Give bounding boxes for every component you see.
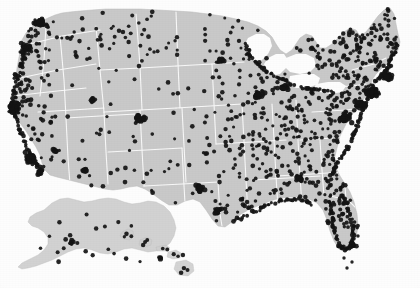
- map-data-point: [334, 237, 338, 241]
- map-data-point: [129, 234, 133, 238]
- map-data-point: [34, 33, 38, 37]
- map-data-point: [379, 60, 383, 64]
- map-data-point: [292, 83, 296, 87]
- map-data-point: [55, 35, 59, 39]
- map-data-point: [227, 148, 232, 153]
- map-data-point: [12, 105, 15, 108]
- map-data-point: [203, 39, 207, 43]
- map-data-point: [359, 67, 363, 71]
- map-data-point: [323, 158, 326, 161]
- map-data-point: [232, 62, 236, 66]
- map-data-point: [51, 155, 54, 158]
- map-data-point: [109, 171, 114, 176]
- map-data-point: [288, 141, 292, 145]
- map-data-point: [330, 62, 335, 67]
- map-data-point: [277, 156, 281, 160]
- map-data-point: [182, 266, 186, 270]
- map-data-point: [332, 40, 337, 45]
- map-data-point: [265, 148, 269, 152]
- map-data-point: [172, 252, 176, 256]
- map-data-point: [355, 106, 358, 109]
- map-data-point: [187, 163, 191, 167]
- map-data-point: [275, 113, 278, 116]
- map-data-point: [329, 94, 332, 97]
- map-data-point: [316, 44, 319, 47]
- map-data-point: [175, 53, 179, 57]
- map-data-point: [267, 203, 270, 206]
- map-data-point: [40, 132, 44, 136]
- map-data-point: [392, 37, 396, 41]
- map-data-point: [349, 120, 354, 125]
- map-data-point: [317, 52, 321, 56]
- map-data-point: [255, 210, 259, 214]
- map-data-point: [28, 151, 31, 154]
- map-data-point: [250, 143, 254, 147]
- map-data-point: [218, 60, 222, 64]
- map-data-point: [343, 183, 347, 187]
- map-data-point: [294, 106, 298, 110]
- map-data-point: [316, 180, 320, 184]
- map-data-point: [150, 132, 154, 136]
- map-data-point: [233, 157, 237, 161]
- map-data-point: [16, 120, 20, 124]
- map-data-point: [309, 143, 312, 146]
- map-data-point: [27, 159, 31, 163]
- map-data-point: [251, 102, 254, 105]
- map-data-point: [295, 151, 299, 155]
- map-data-point: [27, 40, 31, 44]
- map-data-point: [319, 121, 323, 125]
- map-data-point: [138, 260, 141, 263]
- map-data-point: [88, 174, 91, 177]
- map-data-point: [96, 38, 100, 42]
- map-data-point: [308, 72, 311, 75]
- map-data-point: [285, 133, 289, 137]
- map-data-point: [128, 149, 131, 152]
- map-data-point: [260, 79, 265, 84]
- map-data-point: [355, 44, 359, 48]
- map-data-point: [179, 270, 184, 275]
- map-data-point: [264, 127, 267, 130]
- map-data-point: [339, 217, 344, 222]
- map-data-point: [276, 174, 280, 178]
- map-data-point: [251, 147, 254, 150]
- map-data-point: [337, 241, 341, 245]
- map-data-point: [338, 208, 342, 212]
- map-data-point: [344, 57, 349, 62]
- map-data-point: [339, 66, 343, 70]
- map-data-point: [171, 92, 175, 96]
- map-data-point: [213, 199, 217, 203]
- map-data-point: [285, 87, 290, 92]
- map-data-point: [353, 220, 357, 224]
- map-data-point: [260, 89, 264, 93]
- map-data-point: [215, 49, 218, 52]
- map-data-point: [301, 110, 304, 113]
- map-data-point: [36, 54, 40, 58]
- map-data-point: [14, 80, 18, 84]
- map-data-point: [261, 162, 264, 165]
- map-data-point: [220, 97, 223, 100]
- map-data-point: [48, 234, 51, 237]
- map-data-point: [70, 243, 73, 246]
- map-data-point: [68, 233, 73, 238]
- map-data-point: [288, 169, 292, 173]
- map-data-point: [236, 19, 240, 23]
- map-data-point: [389, 41, 393, 45]
- map-data-point: [141, 116, 146, 121]
- map-data-point: [317, 191, 322, 196]
- map-data-point: [283, 123, 287, 127]
- map-data-point: [181, 253, 185, 257]
- map-data-point: [29, 137, 33, 141]
- map-data-point: [238, 175, 242, 179]
- map-data-point: [106, 247, 110, 251]
- map-data-point: [289, 120, 293, 124]
- map-data-point: [74, 55, 78, 59]
- map-data-point: [211, 75, 215, 79]
- map-data-point: [29, 27, 33, 31]
- map-data-point: [137, 118, 141, 122]
- map-data-point: [99, 43, 104, 48]
- map-data-point: [174, 201, 178, 205]
- map-data-point: [28, 102, 33, 107]
- map-data-point: [50, 134, 54, 138]
- map-data-point: [354, 38, 358, 42]
- map-data-point: [325, 219, 330, 224]
